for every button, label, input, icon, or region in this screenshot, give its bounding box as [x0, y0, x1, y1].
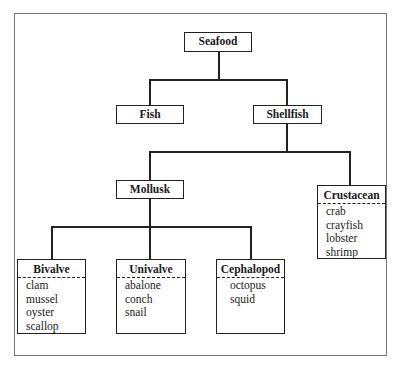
list-item: crayfish: [326, 219, 385, 233]
list-item: snail: [125, 306, 185, 320]
node-mollusk-label: Mollusk: [117, 181, 183, 197]
list-item: conch: [125, 293, 185, 307]
list-item: octopus: [230, 279, 284, 293]
list-item: clam: [26, 279, 85, 293]
node-mollusk: Mollusk: [116, 180, 184, 199]
node-univalve-label: Univalve: [117, 260, 185, 277]
connector-mollusk-down: [149, 198, 151, 226]
node-seafood-label: Seafood: [185, 33, 251, 49]
list-item: squid: [230, 293, 284, 307]
node-shellfish: Shellfish: [253, 105, 322, 124]
cephalopod-items: octopus squid: [217, 278, 284, 306]
bivalve-items: clam mussel oyster scallop: [18, 278, 85, 333]
node-univalve: Univalve abalone conch snail: [116, 259, 186, 334]
list-item: crab: [326, 205, 385, 219]
list-item: oyster: [26, 306, 85, 320]
node-fish: Fish: [116, 105, 184, 124]
list-item: shrimp: [326, 246, 385, 260]
connector-univalve-up: [149, 226, 151, 259]
connector-fish-up: [149, 79, 151, 105]
univalve-items: abalone conch snail: [117, 278, 185, 320]
list-item: lobster: [326, 232, 385, 246]
node-fish-label: Fish: [117, 106, 183, 122]
node-bivalve: Bivalve clam mussel oyster scallop: [17, 259, 86, 334]
connector-level2-horizontal: [149, 151, 350, 153]
node-crustacean-label: Crustacean: [318, 186, 385, 203]
connector-level3-horizontal: [51, 226, 251, 228]
list-item: abalone: [125, 279, 185, 293]
connector-mollusk-up: [149, 151, 151, 180]
node-bivalve-label: Bivalve: [18, 260, 85, 277]
connector-cephalopod-up: [250, 226, 252, 259]
node-shellfish-label: Shellfish: [254, 106, 321, 122]
list-item: scallop: [26, 320, 85, 334]
node-cephalopod: Cephalopod octopus squid: [216, 259, 285, 334]
node-seafood: Seafood: [184, 32, 252, 52]
list-item: mussel: [26, 293, 85, 307]
node-crustacean: Crustacean crab crayfish lobster shrimp: [317, 185, 386, 259]
connector-seafood-down: [218, 51, 220, 80]
node-cephalopod-label: Cephalopod: [217, 260, 284, 277]
connector-shellfish-down: [286, 123, 288, 152]
connector-crustacean-up: [349, 151, 351, 185]
connector-bivalve-up: [51, 226, 53, 259]
connector-shellfish-up: [286, 79, 288, 105]
crustacean-items: crab crayfish lobster shrimp: [318, 204, 385, 259]
connector-level1-horizontal: [149, 79, 287, 81]
